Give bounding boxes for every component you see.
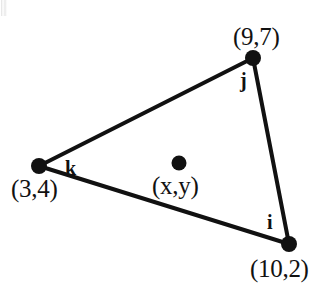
vertex-coordinate-label-j: (9,7) (233, 24, 279, 49)
vertex-coordinate-label-k: (3,4) (11, 176, 57, 201)
vertex-dot-k (31, 158, 47, 174)
interior-point-dot (172, 156, 187, 171)
vertex-dot-j (245, 50, 261, 66)
vertex-letter-label-i: i (267, 212, 273, 232)
vertex-letter-label-k: k (65, 158, 76, 178)
vertex-coordinate-label-i: (10,2) (250, 256, 309, 281)
vertex-letter-label-j: j (240, 70, 247, 90)
triangle-outline (39, 58, 289, 244)
interior-point-coordinate-label: (x,y) (152, 173, 198, 198)
triangle-diagram: (9,7) (3,4) (10,2) (x,y) j k i (0, 0, 327, 299)
vertex-dot-i (281, 236, 297, 252)
